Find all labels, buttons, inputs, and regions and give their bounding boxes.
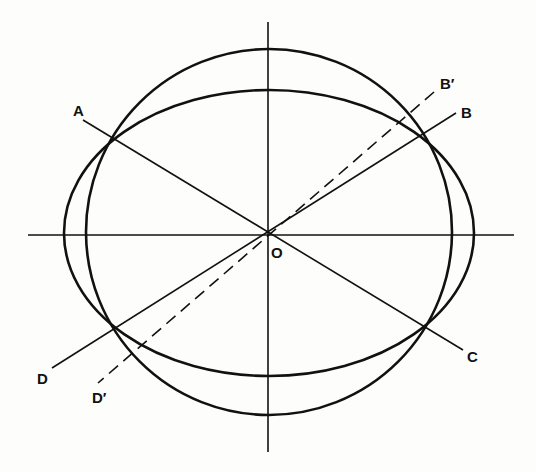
label-b-prime: B′ xyxy=(440,75,455,92)
diagram-canvas: A B B′ C D D′ O xyxy=(0,0,536,472)
label-a: A xyxy=(73,102,84,119)
label-d-prime: D′ xyxy=(92,389,107,406)
geometry-figure: A B B′ C D D′ O xyxy=(0,0,536,472)
label-d: D xyxy=(37,370,48,387)
dashed-diameter-b-prime-d-prime xyxy=(98,92,434,383)
label-c: C xyxy=(467,348,478,365)
label-o-center: O xyxy=(271,244,283,261)
label-b: B xyxy=(461,104,472,121)
diameter-bd xyxy=(52,113,456,368)
